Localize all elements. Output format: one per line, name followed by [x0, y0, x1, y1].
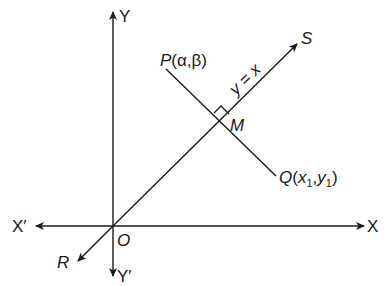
label-Q: Q(x1,y1): [279, 168, 338, 189]
label-P: P(α,β): [160, 51, 207, 70]
label-P-coords: (α,β): [171, 51, 207, 70]
label-Q-close-paren: ): [332, 168, 338, 187]
diagram-figure: Y Y′ X X′ O R S M y = x P(α,β) Q(x1,y1): [0, 0, 385, 286]
label-Q-x: x: [297, 168, 307, 187]
label-x-axis: X: [367, 217, 378, 236]
ray-to-S: [113, 44, 297, 226]
label-line-equation: y = x: [225, 59, 265, 99]
label-P-name: P: [160, 51, 172, 70]
label-x-prime: X′: [12, 217, 27, 236]
label-Q-name: Q: [279, 168, 292, 187]
line-y-equals-x: [78, 44, 297, 261]
label-R: R: [57, 253, 69, 272]
label-M: M: [230, 116, 245, 135]
label-y-prime: Y′: [117, 267, 132, 286]
label-y-axis: Y: [119, 7, 130, 26]
ray-to-R: [78, 226, 113, 261]
segment-PQ: [166, 69, 276, 176]
label-S: S: [301, 29, 313, 48]
label-origin: O: [117, 231, 130, 250]
